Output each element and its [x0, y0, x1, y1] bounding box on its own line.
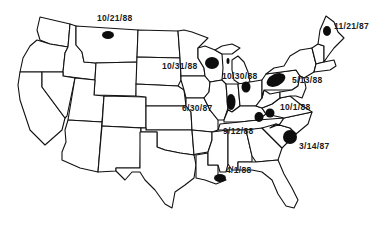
outbreak-blob-indiana-ohio — [242, 82, 251, 93]
outbreak-date-label: 10/21/88 — [97, 14, 133, 23]
outbreak-date-label: 10/30/88 — [222, 72, 258, 81]
outbreak-blob-louisiana — [214, 174, 226, 182]
outbreak-blob-michigan-upper — [227, 58, 230, 64]
outbreak-date-label: 5/13/88 — [292, 76, 322, 85]
outbreak-date-label: 10/1/88 — [280, 103, 310, 112]
outbreak-date-label: 9/12/88 — [223, 127, 253, 136]
outbreak-blob-west-virginia — [266, 109, 275, 118]
outbreak-blob-kentucky-west — [255, 112, 264, 122]
outbreak-blob-wisconsin — [205, 57, 219, 69]
outbreak-blob-maine — [323, 26, 331, 36]
outbreak-blob-south-carolina — [283, 130, 297, 144]
us-outbreak-map — [0, 0, 384, 236]
outbreak-date-label: 3/14/87 — [299, 142, 329, 151]
state-outlines — [18, 16, 344, 208]
outbreak-blob-illinois — [227, 94, 236, 110]
outbreak-blob-montana — [102, 31, 114, 39]
outbreak-date-label: 10/31/88 — [162, 62, 198, 71]
outbreak-date-label: 4/1/88 — [226, 166, 251, 175]
outbreak-date-label: 11/21/87 — [334, 22, 369, 31]
outbreak-date-label: 6/30/87 — [182, 104, 212, 113]
